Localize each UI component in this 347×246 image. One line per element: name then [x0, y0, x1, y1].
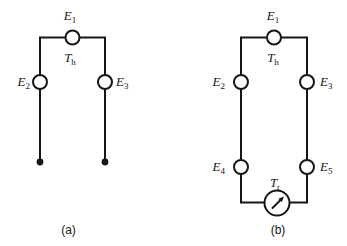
thermocouple-figure: E1 Th E2 E3 (a) E1 Th E2 E3	[0, 0, 347, 246]
junction-e1-a	[66, 31, 80, 45]
panel-b: E1 Th E2 E3 E4 E5 Tr (b)	[212, 8, 333, 237]
label-e1-a: E1	[63, 8, 76, 25]
label-e5-b: E5	[319, 159, 333, 176]
label-tr-b: Tr	[270, 175, 280, 192]
label-e2-a: E2	[17, 74, 30, 91]
label-e4-b: E4	[212, 159, 226, 176]
caption-b: (b)	[271, 223, 286, 237]
label-e3-b: E3	[319, 74, 333, 91]
figure-canvas: E1 Th E2 E3 (a) E1 Th E2 E3	[0, 0, 347, 246]
label-th-b: Th	[267, 50, 279, 67]
meter-indicator	[265, 191, 290, 216]
label-e2-b: E2	[212, 74, 225, 91]
panel-a: E1 Th E2 E3 (a)	[17, 8, 129, 237]
caption-a: (a)	[61, 223, 76, 237]
junction-e1-b	[267, 31, 281, 45]
junction-e4-b	[234, 160, 248, 174]
junction-e3-b	[300, 75, 314, 89]
label-e1-b: E1	[266, 8, 279, 25]
junction-e5-b	[300, 160, 314, 174]
junction-e3-a	[98, 75, 112, 89]
label-th-a: Th	[64, 50, 76, 67]
junction-e2-a	[33, 75, 47, 89]
terminal-dot-right-a	[102, 159, 109, 166]
label-e3-a: E3	[115, 74, 129, 91]
junction-e2-b	[234, 75, 248, 89]
terminal-dot-left-a	[37, 159, 44, 166]
